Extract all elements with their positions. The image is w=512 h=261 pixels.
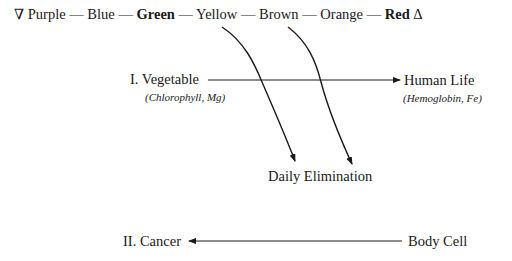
node-vegetable-sub: (Chlorophyll, Mg)	[145, 92, 225, 103]
node-cancer: II. Cancer	[123, 234, 181, 249]
node-daily-elimination: Daily Elimination	[268, 169, 372, 184]
node-body-cell: Body Cell	[408, 234, 467, 249]
arrow-brown-to-elimination	[288, 27, 352, 164]
node-human-life: Human Life	[404, 73, 474, 88]
diagram-arrows	[0, 0, 512, 261]
node-vegetable: I. Vegetable	[130, 72, 199, 87]
node-human-life-sub: (Hemoglobin, Fe)	[403, 93, 482, 104]
arrow-yellow-to-elimination	[222, 27, 295, 161]
